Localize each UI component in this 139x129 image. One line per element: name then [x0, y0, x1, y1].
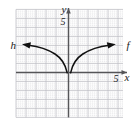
curve-label-h: h: [11, 39, 17, 51]
graph-figure: y 5 x 5 h f: [0, 0, 139, 129]
y-axis-label: y: [61, 3, 67, 15]
x-axis-label: x: [124, 71, 130, 83]
coordinate-plane-svg: y 5 x 5 h f: [0, 0, 139, 129]
curve-f: [71, 42, 116, 73]
x-tick-label-5: 5: [114, 73, 119, 84]
y-tick-label-5: 5: [61, 16, 66, 27]
curve-label-f: f: [127, 39, 132, 51]
curve-h: [22, 42, 67, 73]
